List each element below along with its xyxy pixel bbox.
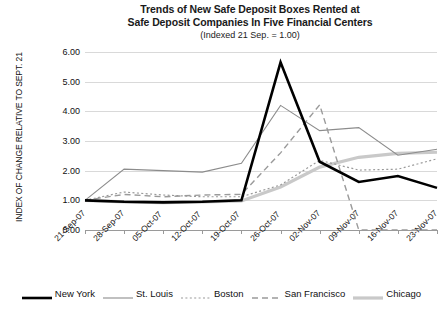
x-tick-mark [437,230,438,234]
y-axis-title: INDEX OF CHANGE RELATIVE TO SEPT. 21 [14,35,24,240]
plot-area: 0.001.002.003.004.005.006.00 21-Sep-0728… [85,52,437,230]
x-tick-mark [124,230,125,234]
series-line-st-louis [85,105,437,200]
x-tick-mark [398,230,399,234]
legend-label: Chicago [386,288,421,299]
x-tick-mark [281,230,282,234]
y-tick-label: 4.00 [62,106,80,116]
legend-label: New York [55,288,95,299]
x-tick-mark [85,230,86,234]
y-tick-label: 1.00 [62,195,80,205]
legend-swatch-icon [22,289,52,299]
series-lines [85,52,437,230]
y-tick-label: 2.00 [62,166,80,176]
y-tick-label: 5.00 [62,77,80,87]
y-tick-label: 3.00 [62,136,80,146]
x-tick-mark [359,230,360,234]
legend-swatch-icon [103,289,133,299]
legend-swatch-icon [252,289,282,299]
chart-legend: New YorkSt. LouisBostonSan FranciscoChic… [0,288,443,299]
y-tick-label: 6.00 [62,47,80,57]
x-tick-mark [163,230,164,234]
legend-label: St. Louis [136,288,173,299]
legend-item-boston[interactable]: Boston [181,288,244,299]
chart-figure: Trends of New Safe Deposit Boxes Rented … [0,0,443,314]
x-tick-mark [202,230,203,234]
legend-item-new-york[interactable]: New York [22,288,95,299]
chart-subtitle: (Indexed 21 Sep. = 1.00) [60,29,440,41]
x-tick-mark [241,230,242,234]
series-line-new-york [85,62,437,202]
legend-item-st-louis[interactable]: St. Louis [103,288,173,299]
legend-label: San Francisco [285,288,346,299]
x-tick-mark [320,230,321,234]
legend-swatch-icon [181,289,211,299]
x-tick-label: 21-Sep-07 [52,208,87,243]
legend-swatch-icon [353,289,383,299]
chart-title-line-1: Trends of New Safe Deposit Boxes Rented … [60,3,440,16]
series-line-san-francisco [85,105,437,230]
legend-label: Boston [214,288,244,299]
chart-title-line-2: Safe Deposit Companies In Five Financial… [60,16,440,29]
chart-title-block: Trends of New Safe Deposit Boxes Rented … [60,3,440,41]
legend-item-san-francisco[interactable]: San Francisco [252,288,346,299]
legend-item-chicago[interactable]: Chicago [353,288,421,299]
